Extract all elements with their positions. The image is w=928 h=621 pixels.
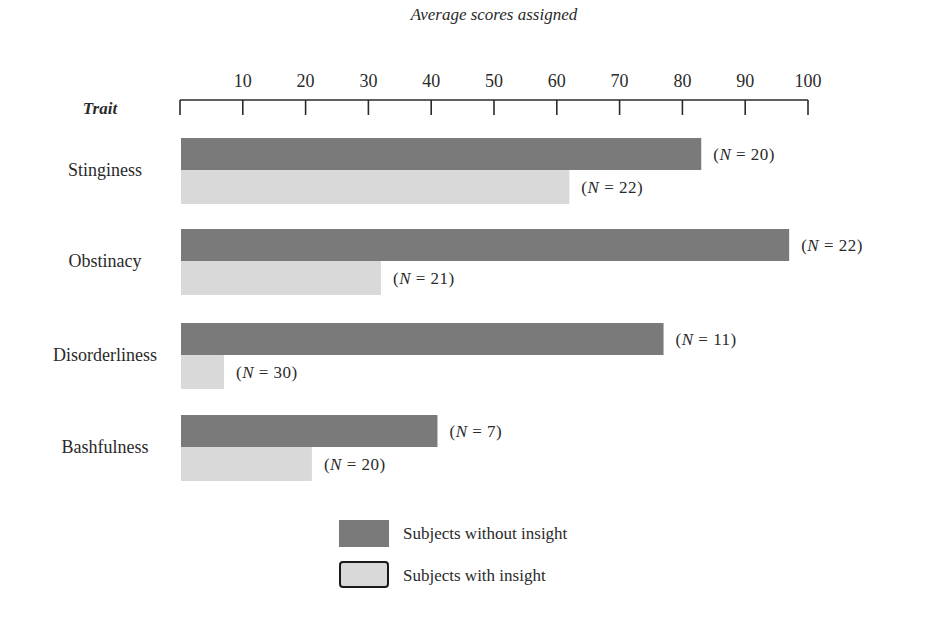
bar-chart: Average scores assigned Trait 1020304050… (0, 0, 928, 621)
n-label-with-insight-bashfulness: (N = 20) (324, 455, 386, 474)
legend-label-with-insight: Subjects with insight (403, 566, 546, 585)
n-label-with-insight-disorderliness: (N = 30) (236, 363, 298, 382)
x-axis-ticks: 102030405060708090100 (234, 71, 822, 115)
n-label-without-insight-stinginess: (N = 20) (713, 145, 775, 164)
n-label-with-insight-stinginess: (N = 22) (581, 178, 643, 197)
x-tick-label: 60 (548, 71, 566, 91)
x-tick-label: 30 (359, 71, 377, 91)
category-label-bashfulness: Bashfulness (62, 437, 149, 457)
category-label-disorderliness: Disorderliness (53, 345, 157, 365)
bar-with-insight-stinginess (181, 170, 569, 204)
legend-swatch-without-insight (339, 520, 389, 547)
n-label-without-insight-obstinacy: (N = 22) (801, 236, 863, 255)
bar-with-insight-bashfulness (181, 447, 312, 481)
legend: Subjects without insightSubjects with in… (339, 520, 568, 587)
x-axis-title: Average scores assigned (410, 5, 578, 24)
x-tick-label: 100 (795, 71, 822, 91)
n-label-with-insight-obstinacy: (N = 21) (393, 269, 455, 288)
y-axis-title: Trait (83, 99, 119, 118)
bar-without-insight-stinginess (181, 138, 701, 170)
bar-with-insight-disorderliness (181, 355, 224, 389)
x-tick-label: 70 (611, 71, 629, 91)
category-label-stinginess: Stinginess (68, 160, 142, 180)
x-tick-label: 50 (485, 71, 503, 91)
n-label-without-insight-bashfulness: (N = 7) (449, 422, 502, 441)
n-label-without-insight-disorderliness: (N = 11) (676, 330, 737, 349)
legend-swatch-with-insight (340, 562, 388, 587)
category-label-obstinacy: Obstinacy (69, 251, 142, 271)
bar-without-insight-obstinacy (181, 229, 789, 261)
x-tick-label: 80 (673, 71, 691, 91)
bar-with-insight-obstinacy (181, 261, 381, 295)
x-tick-label: 90 (736, 71, 754, 91)
bar-without-insight-bashfulness (181, 415, 437, 447)
legend-label-without-insight: Subjects without insight (403, 524, 568, 543)
x-tick-label: 10 (234, 71, 252, 91)
category-labels: StinginessObstinacyDisorderlinessBashful… (53, 160, 157, 457)
x-tick-label: 40 (422, 71, 440, 91)
bar-without-insight-disorderliness (181, 323, 664, 355)
x-tick-label: 20 (297, 71, 315, 91)
